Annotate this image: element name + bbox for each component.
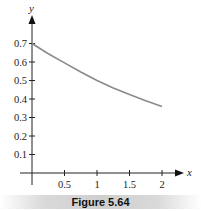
y-tick-label: 0.5 [14, 75, 27, 86]
figure-caption-banner: Figure 5.64 [0, 195, 201, 209]
y-tick-label: 0.2 [14, 131, 27, 142]
y-tick-label: 0.6 [14, 57, 27, 68]
x-axis: x 0.511.52 [20, 166, 192, 190]
y-tick-label: 0.1 [14, 149, 27, 160]
chart: y 0.10.20.30.40.50.60.7 x 0.511.52 [0, 0, 201, 195]
data-curve [32, 44, 162, 107]
y-tick-label: 0.4 [14, 94, 28, 105]
x-axis-arrow-icon [175, 170, 184, 177]
y-axis: y 0.10.20.30.40.50.60.7 [14, 2, 36, 185]
y-axis-label: y [28, 2, 34, 14]
x-axis-label: x [186, 166, 192, 178]
x-tick-label: 1.5 [123, 179, 136, 190]
x-tick-label: 1 [94, 179, 99, 190]
y-tick-label: 0.3 [14, 112, 27, 123]
y-tick-label: 0.7 [14, 38, 27, 49]
y-axis-arrow-icon [29, 15, 36, 24]
figure-caption: Figure 5.64 [71, 196, 129, 208]
x-tick-label: 0.5 [58, 179, 71, 190]
x-tick-label: 2 [159, 179, 164, 190]
